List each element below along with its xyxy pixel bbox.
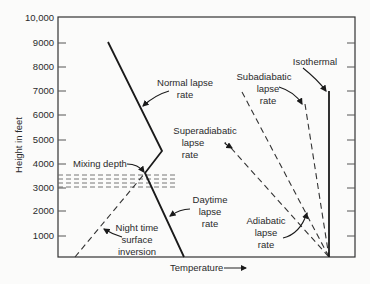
svg-text:rate: rate	[177, 89, 193, 100]
svg-text:9000: 9000	[33, 37, 54, 48]
svg-text:Superadiabatic: Superadiabatic	[173, 125, 237, 136]
svg-text:rate: rate	[260, 95, 276, 106]
svg-text:10,000: 10,000	[25, 12, 54, 23]
dashed-lapse-lines	[231, 92, 329, 257]
svg-text:Daytime: Daytime	[193, 194, 228, 205]
svg-text:rate: rate	[202, 218, 218, 229]
svg-text:8000: 8000	[33, 61, 54, 72]
svg-text:lapse: lapse	[255, 227, 278, 238]
svg-text:Subadiabatic: Subadiabatic	[237, 71, 292, 82]
lapse-rate-diagram: 10,000 9000 8000 7000 6000 5000 4000 300…	[0, 0, 370, 284]
label-night-inversion: Night time surface inversion	[116, 222, 159, 257]
svg-text:lapse: lapse	[182, 137, 205, 148]
label-superadiabatic: Superadiabatic lapse rate	[173, 125, 237, 160]
svg-text:2000: 2000	[33, 205, 54, 216]
svg-text:7000: 7000	[33, 85, 54, 96]
svg-text:inversion: inversion	[118, 246, 156, 257]
svg-text:6000: 6000	[33, 109, 54, 120]
x-axis-label: Temperature	[170, 262, 246, 273]
svg-text:lapse: lapse	[199, 206, 222, 217]
svg-text:surface: surface	[121, 234, 152, 245]
svg-text:5000: 5000	[33, 134, 54, 145]
svg-text:Night time: Night time	[116, 222, 159, 233]
label-mixing-depth: Mixing depth	[73, 158, 127, 169]
svg-text:rate: rate	[182, 149, 198, 160]
svg-text:rate: rate	[258, 239, 274, 250]
label-adiabatic: Adiabatic lapse rate	[246, 215, 285, 250]
label-isothermal: Isothermal	[293, 56, 337, 67]
svg-text:Temperature: Temperature	[170, 262, 223, 273]
svg-text:Normal lapse: Normal lapse	[157, 77, 213, 88]
svg-text:4000: 4000	[33, 158, 54, 169]
mixing-depth-band	[58, 175, 176, 187]
svg-text:1000: 1000	[33, 230, 54, 241]
label-normal-lapse: Normal lapse rate	[157, 77, 213, 100]
y-tick-labels: 10,000 9000 8000 7000 6000 5000 4000 300…	[25, 12, 54, 241]
label-daytime-lapse: Daytime lapse rate	[193, 194, 228, 229]
svg-text:lapse: lapse	[257, 83, 280, 94]
svg-text:Adiabatic: Adiabatic	[246, 215, 285, 226]
y-axis-label: Height in feet	[13, 117, 24, 173]
svg-text:3000: 3000	[33, 182, 54, 193]
